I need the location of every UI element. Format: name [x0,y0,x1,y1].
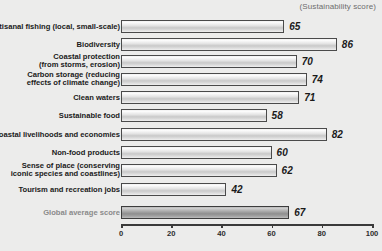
bar-value-label: 58 [272,109,283,122]
bar [121,55,297,68]
category-label: Biodiversity [0,41,120,49]
x-axis-tick-label: 0 [119,229,123,238]
chart-row: Biodiversity86 [0,38,382,51]
bar [121,206,289,219]
bar-value-label: 42 [231,183,242,196]
category-label: Carbon storage (reducing effects of clim… [0,71,120,88]
chart-axis-note: (Sustainability score) [300,2,376,11]
bar-value-label: 62 [282,164,293,177]
x-axis-tick-label: 60 [267,229,275,238]
bar [121,73,307,86]
bar-value-label: 82 [332,128,343,141]
chart-row: Global average score67 [0,206,382,219]
chart-row: Artisanal fishing (local, small-scale)65 [0,20,382,33]
chart-row: Sustainable food58 [0,109,382,122]
category-label: Global average score [0,209,120,217]
chart-row: Carbon storage (reducing effects of clim… [0,73,382,86]
bar [121,20,284,33]
x-axis-tick [221,224,223,228]
chart-row: Sense of place (conserving iconic specie… [0,164,382,177]
category-label: Coastal protection (from storms, erosion… [0,53,120,70]
x-axis-tick-label: 20 [167,229,175,238]
x-axis-tick [171,224,173,228]
bar-value-label: 65 [289,20,300,33]
bar [121,38,337,51]
bar-value-label: 74 [312,73,323,86]
x-axis-tick-label: 100 [366,229,379,238]
category-label: Non-food products [0,149,120,157]
bar [121,128,327,141]
x-axis-line [121,224,372,226]
category-label: Artisanal fishing (local, small-scale) [0,23,120,31]
x-axis-tick [272,224,274,228]
bar-value-label: 70 [302,55,313,68]
bar-value-label: 60 [277,146,288,159]
bar [121,164,277,177]
category-label: Clean waters [0,94,120,102]
chart-row: Tourism and recreation jobs42 [0,183,382,196]
bar [121,91,299,104]
sustainability-score-bar-chart: (Sustainability score) Artisanal fishing… [0,0,382,251]
category-label: Coastal livelihoods and economies [0,131,120,139]
chart-row: Clean waters71 [0,91,382,104]
x-axis-tick [121,224,123,228]
bar-value-label: 71 [304,91,315,104]
category-label: Sense of place (conserving iconic specie… [0,162,120,179]
category-label: Tourism and recreation jobs [0,186,120,194]
bar [121,183,226,196]
x-axis-tick [322,224,324,228]
chart-row: Coastal livelihoods and economies82 [0,128,382,141]
x-axis-tick-label: 40 [217,229,225,238]
chart-row: Non-food products60 [0,146,382,159]
bar [121,146,272,159]
x-axis-tick [372,224,374,228]
bar [121,109,267,122]
bar-value-label: 86 [342,38,353,51]
category-label: Sustainable food [0,112,120,120]
bar-value-label: 67 [294,206,305,219]
chart-row: Coastal protection (from storms, erosion… [0,55,382,68]
x-axis-tick-label: 80 [318,229,326,238]
plot-area: Artisanal fishing (local, small-scale)65… [0,18,382,224]
